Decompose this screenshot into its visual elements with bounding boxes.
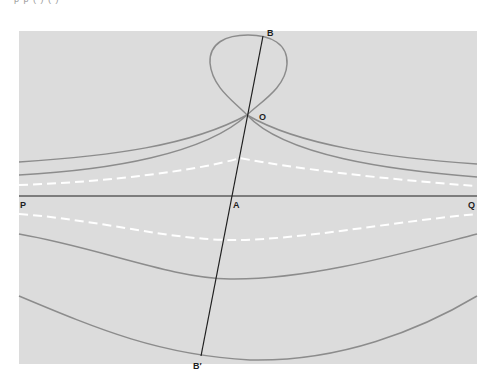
label-Q: Q <box>468 200 475 210</box>
label-B-prime: B′ <box>193 361 202 371</box>
loop-curve <box>210 35 287 115</box>
upper-solid-curve-2 <box>19 115 477 177</box>
upper-dashed-curve <box>19 158 477 186</box>
lower-dashed-curve <box>19 214 477 240</box>
label-A: A <box>233 200 240 210</box>
upper-solid-curve-1 <box>19 115 477 164</box>
label-P: P <box>20 200 26 210</box>
diagram-canvas: p p ( ) ( ) <box>0 0 494 391</box>
lower-solid-curve-bottom <box>19 296 477 360</box>
lower-solid-curve-middle <box>19 234 477 279</box>
field-lines-diagram: B O P A Q B′ <box>0 0 494 391</box>
label-B: B <box>267 28 274 38</box>
label-O: O <box>259 112 266 122</box>
